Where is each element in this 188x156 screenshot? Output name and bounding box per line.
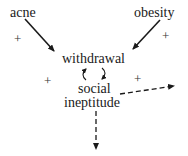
diagram-arrows — [0, 0, 188, 156]
sign-acne-plus: + — [14, 32, 21, 45]
sign-left-loop-plus: + — [44, 74, 51, 87]
node-withdrawal: withdrawal — [62, 52, 125, 66]
arrow-obesity-to-withdrawal — [133, 20, 160, 49]
node-obesity: obesity — [134, 6, 174, 20]
arrow-acne-to-withdrawal — [25, 19, 54, 51]
node-acne: acne — [10, 6, 36, 20]
dashed-arrow-right — [120, 86, 174, 94]
node-ineptitude-line2: ineptitude — [64, 96, 120, 110]
sign-right-loop-plus: + — [134, 72, 141, 85]
node-social-line1: social — [78, 82, 111, 96]
arrow-withdrawal-to-ineptitude — [102, 68, 105, 79]
arrow-ineptitude-to-withdrawal — [83, 69, 86, 80]
sign-obesity-plus: + — [162, 29, 169, 42]
